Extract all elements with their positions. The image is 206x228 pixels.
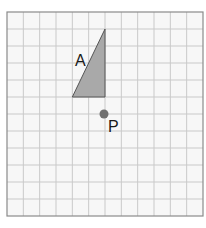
grid-diagram: A P xyxy=(0,0,206,228)
point-p-label: P xyxy=(108,118,119,135)
triangle-a-label: A xyxy=(75,52,86,69)
